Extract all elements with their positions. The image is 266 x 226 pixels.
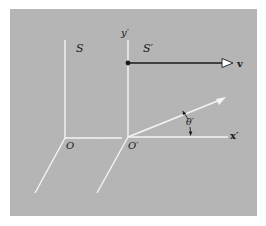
- panel-grain: [10, 9, 257, 216]
- x-prime-label: x′: [230, 130, 239, 141]
- theta-prime-label: θ′: [186, 116, 195, 127]
- frame-s-label: S: [76, 42, 84, 55]
- origin-o-prime-label: O′: [128, 140, 139, 151]
- y-prime-label: y′: [120, 27, 130, 38]
- relativity-frames-diagram: S y′ S′ v O O′ θ′ x′: [0, 0, 266, 226]
- origin-o-label: O: [66, 140, 74, 151]
- velocity-label: v: [236, 58, 244, 69]
- frame-s-prime-label: S′: [143, 42, 154, 55]
